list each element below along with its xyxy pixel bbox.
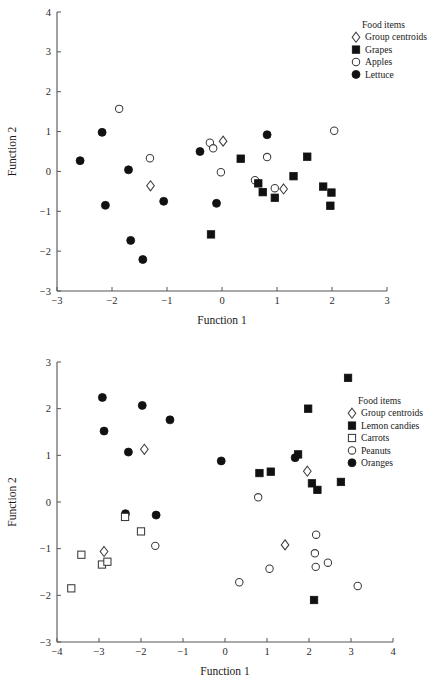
y-tick-label: 4 [46, 7, 52, 18]
data-point [104, 558, 111, 565]
data-point [324, 559, 331, 566]
data-point [281, 540, 289, 550]
data-point [101, 201, 109, 209]
data-point [125, 166, 133, 174]
y-tick-label: 1 [46, 126, 51, 137]
data-point [76, 157, 84, 165]
legend-marker-group-centroids [352, 32, 360, 42]
data-point [68, 585, 75, 592]
data-point [263, 131, 271, 139]
data-point [98, 393, 106, 401]
x-tick-label: −2 [106, 295, 117, 306]
data-point [152, 511, 160, 519]
legend-title: Food items [362, 19, 405, 30]
y-tick-label: −3 [40, 286, 51, 297]
x-tick-label: 4 [390, 646, 396, 657]
y-tick-label: 3 [46, 46, 51, 57]
data-point [147, 181, 155, 191]
data-point [217, 457, 225, 465]
data-point [141, 444, 149, 454]
legend-marker-oranges [348, 459, 356, 467]
legend-label-group-centroids: Group centroids [365, 31, 427, 42]
scatter-plot-top: −3−2−10123−3−2−101234Function 1Function … [0, 0, 441, 350]
data-point [98, 128, 106, 136]
y-tick-label: −1 [40, 543, 51, 554]
y-tick-label: −3 [40, 637, 51, 648]
data-point [237, 155, 244, 162]
data-point [146, 155, 153, 162]
data-point [115, 105, 122, 112]
data-point [152, 542, 159, 549]
scatter-plot-bottom: −4−3−2−101234−3−2−10123Function 1Functio… [0, 350, 441, 700]
data-point [254, 494, 261, 501]
y-tick-label: 0 [46, 497, 51, 508]
x-tick-label: −1 [161, 295, 172, 306]
plot-canvas-top: −3−2−10123−3−2−101234Function 1Function … [0, 0, 441, 350]
y-tick-label: 2 [46, 403, 51, 414]
legend-marker-apples [352, 58, 359, 65]
series-apples [115, 105, 337, 192]
data-point [320, 183, 327, 190]
data-point [121, 513, 128, 520]
data-point [166, 416, 174, 424]
data-point [137, 528, 144, 535]
data-point [311, 550, 318, 557]
data-point [327, 202, 334, 209]
data-point [331, 127, 338, 134]
data-point [124, 448, 132, 456]
legend-label-lemon-candies: Lemon candies [361, 420, 420, 431]
data-point [219, 136, 227, 146]
data-point [139, 256, 147, 264]
x-axis-title: Function 1 [200, 665, 250, 677]
y-tick-label: −2 [40, 590, 51, 601]
data-point [344, 374, 351, 381]
x-tick-label: 1 [264, 646, 269, 657]
data-point [280, 184, 288, 194]
legend-title: Food items [358, 395, 401, 406]
data-point [271, 194, 278, 201]
y-tick-label: −1 [40, 206, 51, 217]
legend-label-oranges: Oranges [361, 457, 393, 468]
legend-label-apples: Apples [365, 56, 392, 67]
figure-page: −3−2−10123−3−2−101234Function 1Function … [0, 0, 441, 700]
data-point [236, 579, 243, 586]
legend-marker-lemon-candies [348, 422, 355, 429]
legend-marker-carrots [348, 434, 355, 441]
data-point [78, 551, 85, 558]
data-point [210, 145, 217, 152]
data-point [267, 468, 274, 475]
data-point [196, 148, 204, 156]
x-tick-label: 0 [222, 646, 227, 657]
data-point [160, 197, 168, 205]
y-tick-label: 0 [46, 166, 51, 177]
series-group-centroids [147, 136, 288, 194]
axes-top: −3−2−10123−3−2−101234Function 1Function … [6, 7, 390, 326]
data-point [290, 173, 297, 180]
x-tick-label: −2 [135, 646, 146, 657]
y-axis-title: Function 2 [6, 126, 18, 176]
legend-label-carrots: Carrots [361, 432, 390, 443]
legend-marker-peanuts [348, 447, 355, 454]
data-point [263, 153, 270, 160]
data-point [304, 153, 311, 160]
data-point [259, 188, 266, 195]
data-point [127, 236, 135, 244]
legend-label-grapes: Grapes [365, 44, 392, 55]
legend-marker-lettuce [352, 70, 360, 78]
x-tick-label: −3 [51, 295, 62, 306]
data-point [100, 546, 108, 556]
data-point [271, 184, 278, 191]
data-point [312, 531, 319, 538]
series-oranges [98, 393, 299, 519]
plot-canvas-bottom: −4−3−2−101234−3−2−10123Function 1Functio… [0, 350, 441, 700]
y-tick-label: −2 [40, 246, 51, 257]
legend-label-group-centroids: Group centroids [361, 407, 423, 418]
x-tick-label: 0 [219, 295, 224, 306]
data-point [100, 427, 108, 435]
data-point [138, 401, 146, 409]
series-grapes [207, 153, 335, 238]
legend-bottom: Food itemsGroup centroidsLemon candiesCa… [348, 395, 423, 468]
legend-label-lettuce: Lettuce [365, 69, 394, 80]
y-tick-label: 3 [46, 357, 51, 368]
data-point [207, 231, 214, 238]
